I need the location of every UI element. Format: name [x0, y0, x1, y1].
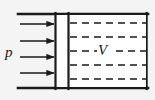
diagram-canvas: [0, 0, 155, 100]
piston: [56, 13, 69, 89]
piston-cylinder-diagram: p V: [0, 0, 155, 100]
pressure-label: p: [5, 45, 13, 60]
volume-label: V: [98, 43, 107, 58]
pressure-arrow-group: [20, 24, 54, 73]
